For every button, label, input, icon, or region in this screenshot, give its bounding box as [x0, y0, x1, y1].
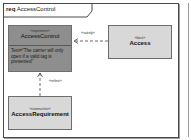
- relation-arrows: [0, 0, 191, 140]
- satisfy-arrow[interactable]: [74, 39, 108, 44]
- refine-label: «refine»: [49, 79, 62, 83]
- adjacent-panel-edge: [188, 3, 189, 137]
- satisfy-label: «satisfy»: [81, 31, 95, 35]
- refine-arrow[interactable]: [38, 73, 43, 96]
